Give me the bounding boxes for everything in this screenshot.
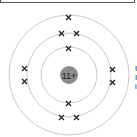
electron — [59, 115, 64, 120]
nucleus-label: 11+ — [62, 71, 77, 81]
side-text-3: i — [135, 82, 137, 91]
electron — [66, 15, 71, 20]
side-text-1: I — [135, 64, 137, 73]
side-text-2: I — [135, 73, 137, 82]
electron — [74, 115, 79, 120]
atom-diagram: 11+ — [0, 0, 137, 137]
electron — [22, 66, 27, 71]
electron — [66, 101, 71, 106]
electron — [22, 79, 27, 84]
